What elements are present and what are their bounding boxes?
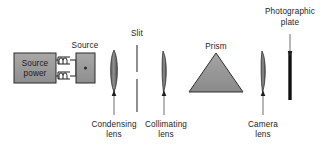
photographic-plate-label-line2: plate — [281, 18, 300, 27]
collimating-lens-label-line1: Collimating — [145, 120, 187, 129]
collimating-lens-label-line2: lens — [158, 130, 174, 139]
light-source: Source — [72, 41, 99, 83]
condensing-lens-label-line1: Condensing — [91, 120, 136, 129]
transformer-coils — [56, 57, 76, 79]
slit-label: Slit — [131, 29, 144, 38]
camera-lens-label-line1: Camera — [248, 120, 278, 129]
photographic-plate — [288, 52, 291, 100]
collimating-lens — [162, 51, 166, 92]
photographic-plate-label-line1: Photographic — [265, 7, 315, 16]
camera-lens-label-line2: lens — [255, 130, 271, 139]
condensing-lens — [111, 50, 118, 92]
collimating-lens-leader — [162, 90, 167, 115]
source-power-label-line1: Source — [22, 59, 49, 68]
camera-lens-leader — [261, 90, 266, 115]
condensing-lens-label-line2: lens — [106, 130, 122, 139]
prism-label: Prism — [205, 42, 227, 51]
source-power-supply: Source power — [14, 53, 56, 83]
condensing-lens-leader — [112, 90, 117, 115]
source-power-label-line2: power — [24, 69, 47, 78]
figure-canvas: Source power Source — [0, 0, 331, 146]
source-label: Source — [72, 41, 99, 50]
prism — [189, 53, 243, 92]
camera-lens — [261, 51, 265, 92]
